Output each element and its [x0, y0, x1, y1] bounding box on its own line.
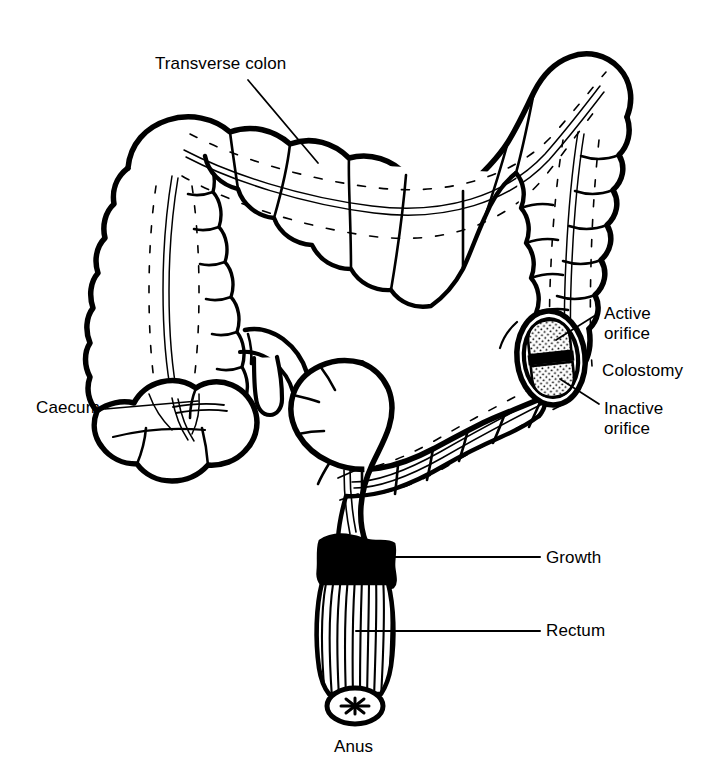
anatomical-diagram-figure: Transverse colon Caecum Active orifice C… — [0, 0, 710, 770]
anus — [327, 688, 383, 724]
colon-illustration — [0, 0, 710, 770]
label-rectum: Rectum — [546, 621, 605, 641]
ascending-colon — [86, 156, 248, 411]
label-colostomy: Colostomy — [602, 361, 683, 381]
label-active-orifice: Active orifice — [604, 304, 651, 344]
label-growth: Growth — [546, 548, 601, 568]
transverse-colon — [128, 54, 631, 307]
appendix — [254, 357, 282, 415]
caecum — [94, 381, 257, 481]
label-inactive-orifice: Inactive orifice — [604, 399, 663, 439]
label-transverse-colon: Transverse colon — [155, 54, 286, 74]
label-anus: Anus — [334, 737, 373, 757]
rectum — [317, 578, 394, 698]
label-caecum: Caecum — [36, 398, 100, 418]
